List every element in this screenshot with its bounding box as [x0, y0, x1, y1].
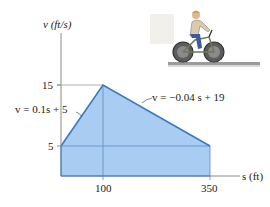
- equation-right-segment: v = −0.04 s + 19: [152, 92, 224, 103]
- rider-hair: [192, 11, 200, 14]
- y-axis-label-text: v (ft/s): [43, 18, 71, 30]
- bicycle-handlebar: [209, 30, 212, 37]
- ground-shadow: [168, 65, 260, 67]
- y-axis-label: v (ft/s): [43, 19, 71, 30]
- cyclist-illustration: [150, 11, 260, 68]
- x-tick-label-100: 100: [95, 183, 112, 194]
- equation-left-segment: v = 0.1s + 5: [15, 104, 67, 115]
- rider-torso: [190, 20, 210, 36]
- x-axis-label: s (ft): [242, 171, 263, 182]
- x-tick-label-350: 350: [201, 183, 218, 194]
- y-tick-label-5: 5: [48, 141, 54, 152]
- leader-right-eq: [142, 98, 152, 103]
- motion-blur: [150, 14, 174, 44]
- y-tick-label-15: 15: [42, 80, 53, 91]
